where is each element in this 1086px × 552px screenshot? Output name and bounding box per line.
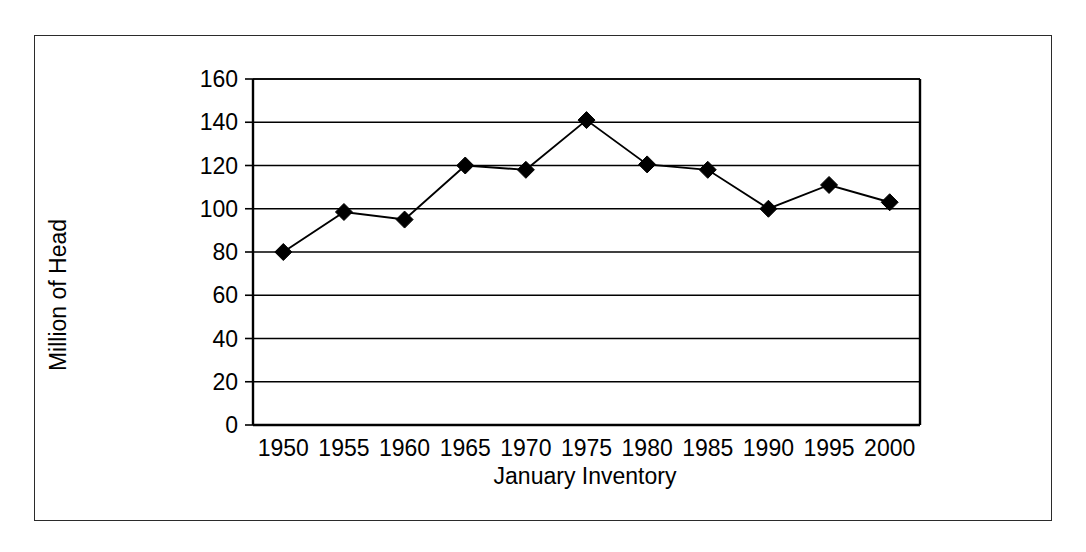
y-tick-label: 100 xyxy=(200,196,238,222)
y-tick-label: 20 xyxy=(212,369,238,395)
x-tick-label: 1970 xyxy=(500,435,551,461)
data-point-marker xyxy=(639,156,656,173)
x-tick-label: 1955 xyxy=(318,435,369,461)
x-tick-label: 1965 xyxy=(440,435,491,461)
y-tick-label: 140 xyxy=(200,109,238,135)
x-tick-label: 1990 xyxy=(743,435,794,461)
x-tick-label: 1980 xyxy=(622,435,673,461)
data-series-group xyxy=(275,112,898,261)
x-axis-title: January Inventory xyxy=(494,463,677,489)
line-chart: 0204060801001201401601950195519601965197… xyxy=(35,36,1053,522)
data-point-marker xyxy=(821,176,838,193)
x-tick-label: 1995 xyxy=(803,435,854,461)
y-tick-label: 60 xyxy=(212,282,238,308)
x-tick-label: 1985 xyxy=(682,435,733,461)
data-point-marker xyxy=(335,203,352,220)
y-tick-label: 160 xyxy=(200,66,238,92)
axis-labels-group: 0204060801001201401601950195519601965197… xyxy=(200,66,916,461)
y-tick-label: 40 xyxy=(212,326,238,352)
x-tick-label: 1950 xyxy=(258,435,309,461)
y-tick-label: 80 xyxy=(212,239,238,265)
x-tick-label: 1960 xyxy=(379,435,430,461)
x-tick-label: 1975 xyxy=(561,435,612,461)
y-axis-title: Million of Head xyxy=(45,219,71,371)
series-line xyxy=(283,120,889,252)
data-point-marker xyxy=(275,244,292,261)
data-point-marker xyxy=(760,200,777,217)
y-tick-label: 0 xyxy=(225,412,238,438)
data-point-marker xyxy=(699,161,716,178)
x-tick-label: 2000 xyxy=(864,435,915,461)
y-tick-label: 120 xyxy=(200,153,238,179)
chart-canvas: 0204060801001201401601950195519601965197… xyxy=(35,36,1053,522)
chart-figure-frame: 0204060801001201401601950195519601965197… xyxy=(34,35,1052,521)
